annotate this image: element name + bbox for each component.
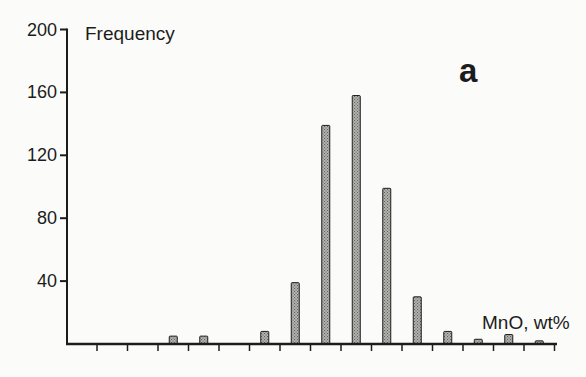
x-axis-title: MnO, wt% [482,313,570,332]
y-tick-label: 80 [37,208,57,228]
y-axis-title: Frequency [85,24,175,43]
y-tick-label: 40 [37,271,57,291]
y-tick-label: 120 [27,145,57,165]
panel-letter-label: a [459,54,477,87]
histogram-bar [444,331,452,344]
y-tick-label: 160 [27,82,57,102]
histogram-bar [261,331,269,344]
y-tick-label: 200 [27,20,57,40]
histogram-bar [413,297,421,344]
histogram-bar [322,125,330,344]
histogram-bar [383,188,391,344]
histogram-bar [352,96,360,344]
histogram-bar [505,335,513,344]
histogram-figure: Frequency MnO, wt% a 2001601208040 [0,0,586,377]
histogram-bar [291,283,299,344]
